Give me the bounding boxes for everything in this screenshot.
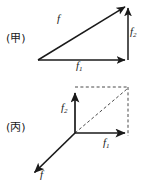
- panel-label-bing: (丙): [6, 122, 26, 133]
- panel-label-jia: (甲): [6, 33, 26, 44]
- vector-label-f1-jia: f1: [76, 60, 83, 71]
- vector-label-f2-jia: f2: [130, 26, 137, 37]
- vector-label-f2-bing-sub: 2: [64, 107, 68, 115]
- vector-label-f2-bing: f2: [61, 102, 68, 113]
- vector-canvas: [0, 0, 149, 190]
- panel-bing-dashed-guides: [75, 87, 128, 136]
- panel-bing-vectors: [35, 93, 126, 173]
- vector-f-jia: [38, 7, 125, 60]
- vector-label-f1-jia-sub: 1: [79, 65, 83, 73]
- vector-label-f2-jia-sub: 2: [133, 31, 137, 39]
- panel-jia-vectors: [38, 7, 128, 60]
- vector-label-f-bing: f: [40, 169, 43, 180]
- vector-label-f1-bing: f1: [103, 137, 110, 148]
- vector-label-f1-bing-sub: 1: [106, 142, 110, 150]
- guide-diagonal-bing: [75, 89, 127, 133]
- vector-f-bing: [35, 133, 76, 173]
- force-diagram-figure: (甲) f f1 f2 (丙) f2 f1 f: [0, 0, 149, 190]
- vector-label-f-jia: f: [57, 13, 60, 24]
